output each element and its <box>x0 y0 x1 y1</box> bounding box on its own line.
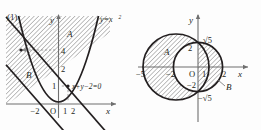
intersection-point-2 <box>66 84 69 87</box>
figure-2-origin-label: O <box>189 69 195 79</box>
figure-2-region-b-label: B <box>226 82 232 92</box>
figure-1-line-label: x+y−2=0 <box>71 82 102 91</box>
intersection-point-1 <box>19 48 22 51</box>
figure-1-xtick-1: 1 <box>63 106 67 116</box>
figure-2-xtick-1: 1 <box>202 69 206 79</box>
figure-2-xtick-2: 2 <box>222 69 226 79</box>
figure-2-ytick-sqrt5: √5 <box>203 35 212 45</box>
figure-2-region-b-crescent <box>209 20 261 120</box>
figure-2-xaxis-label: x <box>237 69 242 79</box>
figure-2-plot: −5 −2 O 1 2 2 −2 x y √5 −√5 A B <box>130 0 261 130</box>
figure-1-xtick-neg2: −2 <box>31 106 40 116</box>
figure-2-yaxis-label: y <box>188 15 193 25</box>
figure-1-plot: 4 2 1 −2 O 1 2 x y y=x 2 x+y−2=0 A B <box>0 0 130 130</box>
figure-2-ytick-neg-sqrt5: −√5 <box>198 93 212 103</box>
figure-2-ytick-2: 2 <box>188 43 192 53</box>
figure-1-origin-label: O <box>50 106 56 116</box>
figure-1-ytick-1: 1 <box>52 81 56 91</box>
figure-sheet: 4 2 1 −2 O 1 2 x y y=x 2 x+y−2=0 A B (1) <box>0 0 261 130</box>
figure-1-xtick-2: 2 <box>71 106 75 116</box>
figure-panel-1: 4 2 1 −2 O 1 2 x y y=x 2 x+y−2=0 A B (1) <box>0 0 130 130</box>
figure-2-ytick-neg2: −2 <box>187 80 196 90</box>
figure-1-parabola-label: y=x <box>99 15 113 24</box>
figure-2-region-b-leader <box>218 80 225 86</box>
figure-1-ytick-2: 2 <box>61 64 65 74</box>
figure-1-yaxis-label: y <box>49 15 54 25</box>
figure-1-region-a-label: A <box>66 29 73 39</box>
figure-2-xtick-neg5: −5 <box>136 69 145 79</box>
figure-2-xtick-neg2: −2 <box>166 69 175 79</box>
figure-1-parabola-label-exp: 2 <box>119 14 122 20</box>
figure-2-region-a-label: A <box>163 47 170 57</box>
figure-panel-2: −5 −2 O 1 2 2 −2 x y √5 −√5 A B (2) <box>130 0 261 130</box>
figure-1-region-b-label: B <box>26 70 32 80</box>
figure-1-xaxis-label: x <box>105 106 110 116</box>
figure-1-index-label: (1) <box>7 12 18 22</box>
